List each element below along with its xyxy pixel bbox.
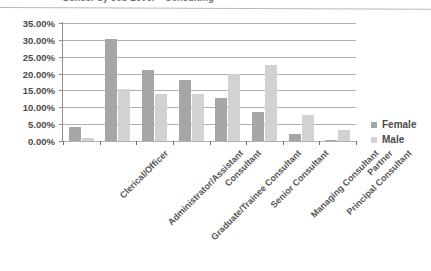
- y-axis-tick-label: 25.00%: [23, 51, 55, 62]
- chart-legend: FemaleMale: [371, 117, 431, 147]
- x-axis-tick: [319, 141, 320, 145]
- bar-female: [252, 112, 264, 141]
- y-axis-tick: [59, 40, 63, 41]
- bar-male: [82, 138, 94, 141]
- y-axis-tick: [59, 107, 63, 108]
- bar-chart: Gender by Job Level – Consulting 0.00%5.…: [0, 0, 431, 271]
- legend-swatch-icon: [371, 137, 377, 143]
- chart-title: Gender by Job Level – Consulting: [62, 0, 214, 3]
- legend-item-label: Male: [382, 134, 404, 145]
- legend-swatch-icon: [371, 122, 377, 128]
- legend-item[interactable]: Male: [371, 132, 431, 147]
- bar-female: [179, 80, 191, 141]
- bar-male: [302, 115, 314, 141]
- x-axis-tick: [246, 141, 247, 145]
- y-axis-tick-label: 5.00%: [28, 119, 55, 130]
- bar-female: [215, 98, 227, 141]
- bar-female: [142, 70, 154, 141]
- bar-male: [265, 65, 277, 141]
- y-axis-tick: [59, 90, 63, 91]
- y-axis-tick: [59, 124, 63, 125]
- bar-male: [118, 89, 130, 141]
- legend-item-label: Female: [382, 119, 416, 130]
- bar-female: [289, 134, 301, 141]
- bar-male: [338, 130, 350, 141]
- y-axis-tick: [59, 57, 63, 58]
- gridline: [63, 23, 356, 24]
- legend-item[interactable]: Female: [371, 117, 431, 132]
- bar-female: [105, 39, 117, 141]
- y-axis-tick-label: 20.00%: [23, 68, 55, 79]
- bar-male: [228, 74, 240, 141]
- x-axis-tick: [173, 141, 174, 145]
- y-axis-tick-label: 35.00%: [23, 18, 55, 29]
- bar-male: [192, 94, 204, 141]
- y-axis-labels: 0.00%5.00%10.00%15.00%20.00%25.00%30.00%…: [0, 23, 59, 141]
- y-axis-tick-label: 30.00%: [23, 34, 55, 45]
- x-axis-tick: [283, 141, 284, 145]
- chart-title-strip: Gender by Job Level – Consulting: [0, 0, 431, 7]
- bar-female: [325, 140, 337, 141]
- x-axis-tick: [136, 141, 137, 145]
- x-axis-tick: [210, 141, 211, 145]
- bar-female: [69, 127, 81, 141]
- x-axis-tick: [356, 141, 357, 145]
- y-axis-tick: [59, 23, 63, 24]
- x-axis-labels: Clerical/OfficerAdministrator/AssistantG…: [0, 146, 431, 256]
- x-axis-tick: [63, 141, 64, 145]
- plot-area: [63, 23, 356, 141]
- bar-male: [155, 94, 167, 141]
- y-axis-tick-label: 0.00%: [28, 136, 55, 147]
- y-axis-tick-label: 15.00%: [23, 85, 55, 96]
- x-axis-tick: [100, 141, 101, 145]
- x-axis-category-label: Clerical/Officer: [118, 148, 170, 200]
- y-axis-tick-label: 10.00%: [23, 102, 55, 113]
- y-axis-tick: [59, 74, 63, 75]
- title-divider: [0, 7, 431, 10]
